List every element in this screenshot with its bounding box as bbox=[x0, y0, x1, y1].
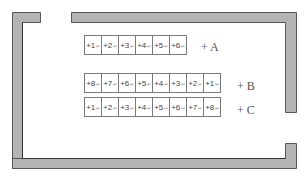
cell: +6↵ bbox=[170, 36, 187, 55]
cell: +2↵ bbox=[102, 36, 119, 55]
cell: +6↵ bbox=[119, 74, 136, 93]
cell: +7↵ bbox=[102, 74, 119, 93]
cell: +2↵ bbox=[102, 98, 119, 117]
cell: +5↵ bbox=[153, 36, 170, 55]
wall-bottom bbox=[13, 144, 297, 169]
seat-row-c: +1↵ +2↵ +3↵ +4↵ +5↵ +6↵ +7↵ +8↵ bbox=[84, 97, 221, 117]
row-label-a: + A bbox=[201, 40, 219, 55]
cell: +8↵ bbox=[85, 74, 102, 93]
cell: +4↵ bbox=[136, 98, 153, 117]
seat-row-b: +8↵ +7↵ +6↵ +5↵ +4↵ +3↵ +2↵ +1↵ bbox=[84, 73, 221, 93]
cell: +7↵ bbox=[187, 98, 204, 117]
cell: +3↵ bbox=[119, 98, 136, 117]
cell: +1↵ bbox=[204, 74, 221, 93]
cell: +6↵ bbox=[170, 98, 187, 117]
cell: +5↵ bbox=[136, 74, 153, 93]
row-label-c: + C bbox=[237, 103, 255, 118]
seat-row-a: +1↵ +2↵ +3↵ +4↵ +5↵ +6↵ bbox=[84, 35, 187, 55]
cell: +4↵ bbox=[153, 74, 170, 93]
cell: +1↵ bbox=[85, 98, 102, 117]
cell: +3↵ bbox=[119, 36, 136, 55]
cell: +4↵ bbox=[136, 36, 153, 55]
cell: +3↵ bbox=[170, 74, 187, 93]
row-label-b: + B bbox=[237, 79, 255, 94]
cell: +2↵ bbox=[187, 74, 204, 93]
cell: +1↵ bbox=[85, 36, 102, 55]
cell: +8↵ bbox=[204, 98, 221, 117]
cell: +5↵ bbox=[153, 98, 170, 117]
wall-top-left bbox=[13, 13, 41, 169]
